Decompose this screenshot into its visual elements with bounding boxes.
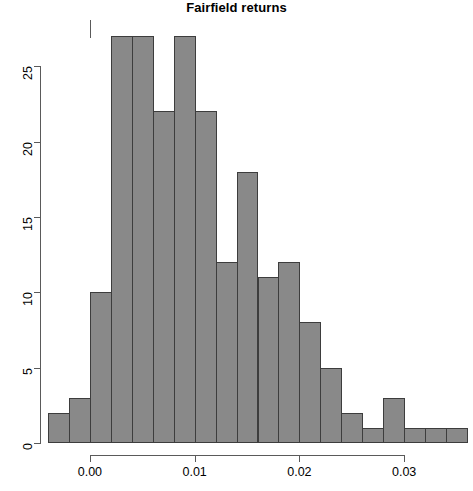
- y-axis-tick-label: 15: [20, 217, 36, 247]
- x-axis-tick-label: 0.01: [165, 465, 225, 479]
- x-axis-tick-label: 0.02: [269, 465, 329, 479]
- x-axis-tick-label: 0.00: [60, 465, 120, 479]
- x-axis-tick: [90, 455, 91, 462]
- y-axis-tick-label: 20: [20, 142, 36, 172]
- x-axis-tick-label: 0.03: [374, 465, 434, 479]
- y-axis-tick-label: 5: [20, 368, 36, 398]
- plot-origin-stub: [90, 20, 91, 38]
- x-axis-line: [90, 455, 404, 456]
- axes-layer: 05101520250.000.010.020.03: [0, 0, 473, 491]
- y-axis-line: [40, 66, 41, 443]
- x-axis-tick: [299, 455, 300, 462]
- x-axis-tick: [404, 455, 405, 462]
- y-axis-tick-label: 10: [20, 292, 36, 322]
- y-axis-tick-label: 0: [20, 443, 36, 473]
- histogram-plot: Fairfield returns 05101520250.000.010.02…: [0, 0, 473, 491]
- x-axis-tick: [195, 455, 196, 462]
- y-axis-tick-label: 25: [20, 66, 36, 96]
